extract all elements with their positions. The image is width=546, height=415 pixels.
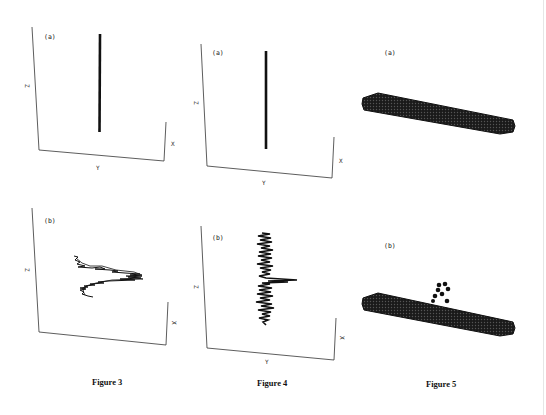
chain bbox=[100, 34, 101, 132]
x-axis-label: X bbox=[339, 157, 343, 164]
x-axis-label: X bbox=[171, 321, 178, 325]
figure-3a-plot: (a) Z X Y bbox=[24, 27, 175, 171]
scanned-page: (a) Z X Y (b) Z X (a) Z X Y (b) bbox=[0, 0, 546, 415]
figure-4b-plot: (b) Z X Y bbox=[193, 226, 346, 365]
panel-label: (b) bbox=[212, 234, 224, 242]
panel-label: (a) bbox=[212, 49, 224, 57]
sphere-rod bbox=[362, 93, 515, 134]
z-axis-label: Z bbox=[193, 285, 200, 289]
sphere-rod bbox=[362, 293, 515, 336]
z-axis-label: Z bbox=[24, 268, 31, 272]
noisy-chain bbox=[256, 233, 297, 325]
figure-4-caption: Figure 4 bbox=[257, 378, 287, 388]
figure-5a-render: (a) bbox=[362, 49, 515, 134]
x-axis-label: X bbox=[339, 336, 346, 340]
figure-4a-plot: (a) Z X Y bbox=[193, 44, 343, 186]
y-axis-label: Y bbox=[262, 179, 266, 186]
figure-3b-plot: (b) Z X bbox=[24, 208, 178, 345]
axes-frame bbox=[201, 44, 334, 178]
figure-5-caption: Figure 5 bbox=[426, 379, 456, 389]
axes-frame bbox=[32, 208, 168, 345]
figure-5b-render: (b) bbox=[362, 242, 515, 336]
figures-canvas: (a) Z X Y (b) Z X (a) Z X Y (b) bbox=[0, 0, 546, 415]
y-axis-label: Y bbox=[96, 164, 100, 171]
zigzag-chain bbox=[74, 256, 142, 297]
figure-3-caption: Figure 3 bbox=[92, 377, 122, 387]
panel-label: (b) bbox=[44, 217, 56, 225]
y-axis-label: Y bbox=[265, 358, 269, 365]
panel-label: (b) bbox=[384, 242, 396, 250]
detached-sphere-cluster bbox=[431, 282, 450, 304]
z-axis-label: Z bbox=[24, 84, 31, 88]
x-axis-label: X bbox=[171, 140, 175, 147]
panel-label: (a) bbox=[384, 49, 396, 57]
panel-label: (a) bbox=[44, 33, 56, 41]
z-axis-label: Z bbox=[193, 101, 200, 105]
